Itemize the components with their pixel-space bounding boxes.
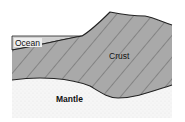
ocean-label: Ocean [15,38,40,48]
earth-crust-diagram: Ocean Crust Mantle [0,0,185,122]
crust-label: Crust [109,51,130,61]
mantle-label: Mantle [56,94,83,104]
